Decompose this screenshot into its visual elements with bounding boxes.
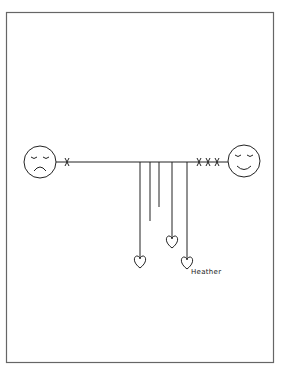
drawing-canvas	[0, 0, 281, 370]
sad-face-icon	[24, 146, 56, 178]
name-label: Heather	[191, 268, 221, 276]
heart-icon	[166, 236, 177, 248]
heart-icon	[134, 256, 145, 268]
happy-face-icon	[228, 145, 260, 177]
hanging-strings	[140, 162, 187, 259]
